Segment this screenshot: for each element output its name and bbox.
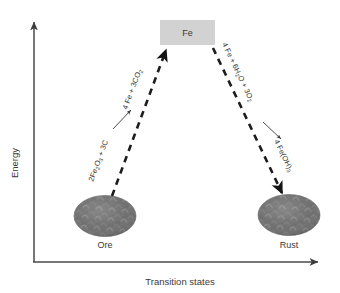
rusting-reaction-arrow [263, 122, 281, 139]
rusting-dashed-line [213, 48, 282, 193]
rusting-products-text: 4 Fe(OH)3 [272, 138, 296, 173]
diagram-canvas: Energy Transition states Ore Rust Fe 2Fe… [0, 0, 340, 293]
fe-box-label: Fe [182, 28, 193, 38]
node-fe-box: Fe [160, 20, 215, 45]
transition-smelting: 2Fe2O3 + 3C 4 Fe + 3CO2 [86, 50, 166, 196]
smelting-reaction-arrow [113, 110, 131, 129]
smelting-reactants-text: 2Fe2O3 + 3C [86, 138, 110, 183]
transition-rusting: 4 Fe + 6H2O + 3O2 4 Fe(OH)3 [213, 41, 295, 193]
x-axis-label: Transition states [145, 276, 215, 287]
y-axis-label: Energy [9, 148, 20, 178]
ore-label: Ore [97, 240, 112, 250]
ore-ellipse-shading [74, 196, 136, 237]
axes-group: Energy Transition states [9, 22, 318, 287]
energy-diagram: Energy Transition states Ore Rust Fe 2Fe… [0, 0, 340, 293]
rust-label: Rust [280, 240, 299, 250]
smelting-products-text: 4 Fe + 3CO2 [120, 68, 144, 111]
node-ore: Ore [74, 196, 136, 251]
node-rust: Rust [258, 195, 320, 251]
rust-ellipse-shading [258, 195, 320, 236]
